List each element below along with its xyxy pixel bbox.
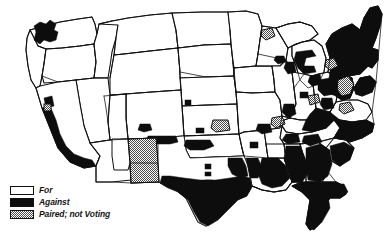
legend-item-paired: Paired; not Voting: [10, 209, 130, 220]
district-texas-c2: [205, 172, 211, 176]
legend-swatch-for-icon: [10, 186, 34, 195]
legend-label-paired: Paired; not Voting: [39, 210, 110, 219]
district-kansas-paired: [211, 120, 230, 132]
state-oregon-east: [42, 44, 96, 83]
district-colorado-denver: [185, 100, 191, 105]
legend-item-for: For: [10, 185, 130, 196]
map-page: For Against Paired; not Voting: [0, 0, 389, 235]
state-iowa: [234, 66, 275, 93]
legend-swatch-paired-icon: [10, 210, 34, 219]
district-kansas-1: [196, 128, 204, 133]
legend-label-for: For: [39, 186, 52, 195]
district-indiana-1: [300, 92, 308, 98]
district-arkansas-1: [250, 142, 258, 148]
district-arizona-paired: [112, 139, 130, 170]
vote-legend: For Against Paired; not Voting: [10, 185, 130, 221]
district-texas-c3: [205, 180, 212, 185]
district-california-paired: [44, 104, 51, 111]
district-texas-c1: [205, 164, 211, 169]
state-colorado: [126, 90, 184, 139]
legend-item-against: Against: [10, 197, 130, 208]
state-north-dakota: [172, 12, 231, 48]
state-wyoming: [110, 48, 181, 95]
legend-swatch-against-icon: [10, 198, 34, 207]
state-kansas: [182, 104, 239, 136]
legend-label-against: Against: [39, 198, 69, 207]
district-new-mexico-paired: [128, 138, 159, 183]
